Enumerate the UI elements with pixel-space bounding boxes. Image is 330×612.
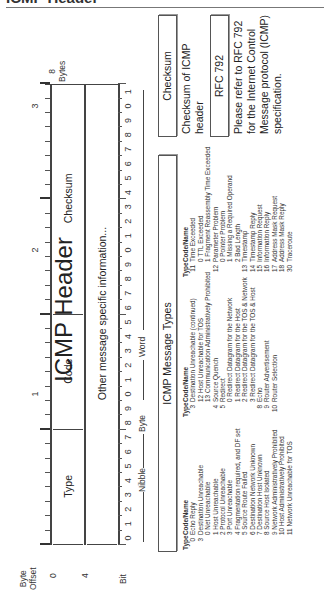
bit-number: 5: [123, 173, 133, 183]
type-number: 3: [189, 405, 196, 417]
code-name: Fragmentation required, and DF set: [234, 428, 241, 529]
byte-arrow: [143, 434, 144, 468]
bit-tick-bottom: [118, 112, 122, 113]
message-types-title: ICMP Message Types: [161, 156, 173, 551]
field-label: Other message specific information...: [96, 227, 108, 400]
message-type-row: 4Source Quench: [212, 272, 219, 417]
bit-tick: [40, 543, 50, 545]
nibble-arrow: [143, 492, 144, 542]
bit-tick-bottom: [118, 371, 122, 372]
code-number: 2: [234, 258, 241, 262]
message-code-row: 6 Destination Network Unknown: [249, 428, 256, 550]
bit-number: 9: [123, 115, 133, 125]
message-type-row: 14Timestamp Reply: [249, 147, 256, 277]
bit-tick-bottom: [118, 170, 122, 171]
message-code-row: 0 Net Unreachable: [204, 428, 211, 550]
code-name: Destination Host Unknown: [256, 454, 263, 529]
message-types-column: TypeCode/Name11Time Exceeded0 TTL Exceed…: [182, 147, 293, 277]
message-type-row: 11Time Exceeded: [189, 147, 196, 277]
bit-number: 6: [123, 303, 133, 313]
bit-tick: [45, 256, 50, 257]
code-number: 12: [197, 395, 204, 402]
byte-legend: Byte: [137, 415, 147, 432]
type-number: 30: [286, 265, 293, 277]
byte-offset-0: 0: [48, 573, 58, 578]
word-arrow: [143, 360, 144, 400]
bit-tick-bottom: [118, 429, 126, 430]
code-number: 9: [271, 531, 278, 535]
type-name: Information Request: [256, 204, 263, 262]
message-type-row: 3Destination Unreachable: [197, 428, 204, 550]
bit-tick-bottom: [118, 184, 122, 185]
type-number: 15: [256, 265, 263, 277]
type-name: Parameter Problem: [212, 207, 219, 262]
type-number: 3: [197, 538, 204, 550]
bit-tick-bottom: [118, 314, 126, 315]
bit-tick-bottom: [118, 544, 126, 545]
message-code-row: 1 Redirect Datagram for the Host: [234, 272, 241, 417]
message-code-row: 7 Destination Host Unknown: [256, 428, 263, 550]
bit-tick-bottom: [118, 256, 122, 257]
bit-tick-bottom: [118, 443, 122, 444]
code-number: 1: [234, 398, 241, 402]
bit-tick-bottom: [118, 227, 122, 228]
message-code-row: 3 Port Unreachable: [226, 428, 233, 550]
code-name: Fragment Reassembly Time Exceeded: [204, 147, 211, 257]
message-type-row: 18Address Mask Reply: [278, 147, 285, 277]
field-code: Code: [53, 314, 83, 430]
message-code-row: 3 Redirect Datagram for the TOS & Host: [249, 272, 256, 417]
code-name: Host Unreachable: [212, 479, 219, 530]
message-type-row: 12Parameter Problem: [212, 147, 219, 277]
type-name: Destination Unreachable (continued): [189, 298, 196, 402]
code-number: 5: [241, 531, 248, 535]
type-name: Timestamp Reply: [249, 213, 256, 262]
bit-label: Bit: [118, 574, 128, 584]
type-number: 17: [271, 265, 278, 277]
bit-number: 0: [123, 389, 133, 399]
bit-number: 4: [123, 187, 133, 197]
bit-tick-bottom: [118, 285, 122, 286]
message-type-row: 13Timestamp: [241, 147, 248, 277]
bytes-legend: 8 Bytes: [47, 61, 67, 82]
bit-tick: [45, 357, 50, 358]
bit-number: 7: [123, 432, 133, 442]
type-number: 8: [256, 405, 263, 417]
bit-tick: [45, 472, 50, 473]
bit-tick: [45, 371, 50, 372]
bit-tick-bottom: [118, 299, 122, 300]
bit-number: 6: [123, 159, 133, 169]
type-header: Type: [182, 265, 189, 277]
word-arrow-right: [143, 90, 144, 330]
code-number: 8: [263, 531, 270, 535]
type-header: Type: [182, 538, 189, 550]
code-number: 0: [219, 258, 226, 262]
field-label: Type: [62, 475, 74, 498]
message-type-row: 16Information Reply: [263, 147, 270, 277]
code-number: 0: [204, 531, 211, 535]
bit-number: 7: [123, 144, 133, 154]
byte-offset-4: 4: [80, 573, 90, 578]
bit-tick: [45, 141, 50, 142]
bit-tick-bottom: [118, 213, 122, 214]
bit-tick: [45, 328, 50, 329]
type-name: Source Quench: [212, 358, 219, 402]
checksum-title: Checksum: [161, 16, 173, 136]
code-number: 2: [219, 531, 226, 535]
bit-tick: [45, 342, 50, 343]
type-number: 4: [212, 405, 219, 417]
column-header: TypeCode/Name: [182, 272, 189, 417]
code-name: Destination Network Unknown: [249, 444, 256, 530]
code-number: 13: [204, 395, 211, 402]
bit-tick: [40, 428, 50, 430]
message-code-row: 0 Pointer Problem: [219, 147, 226, 277]
bytes-value: 8: [47, 61, 57, 82]
code-name: Redirect Datagram for the TOS & Network: [241, 277, 248, 396]
bit-tick-bottom: [118, 126, 122, 127]
bit-tick: [45, 227, 50, 228]
bit-number: 1: [123, 87, 133, 97]
bit-number: 5: [123, 461, 133, 471]
bit-number: 1: [123, 519, 133, 529]
bit-number: 9: [123, 259, 133, 269]
code-number: 1: [226, 258, 233, 262]
bit-tick: [45, 126, 50, 127]
